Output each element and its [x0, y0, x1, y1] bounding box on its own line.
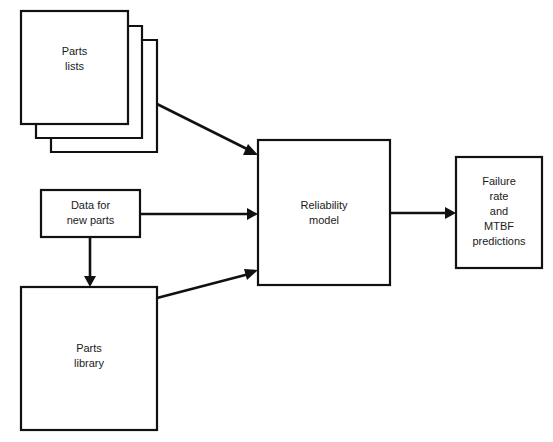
edge-parts-library-to-reliability-model	[157, 269, 258, 298]
edge-data-for-new-parts-to-parts-library	[84, 237, 96, 287]
node-reliability-model[interactable]	[258, 140, 390, 285]
edge-parts-lists-to-reliability-model	[157, 104, 258, 155]
node-data-for-new-parts[interactable]	[41, 190, 140, 237]
node-parts-lists-stack[interactable]	[21, 11, 157, 152]
node-parts-library[interactable]	[21, 287, 157, 430]
arrowhead-icon	[247, 208, 258, 220]
arrowhead-icon	[445, 207, 456, 219]
diagram-canvas-container: Parts lists Data for new parts Parts lib…	[0, 0, 553, 442]
arrowhead-icon	[244, 269, 258, 280]
node-failure-rate-mtbf-predictions[interactable]	[456, 157, 542, 268]
arrowhead-icon	[84, 276, 96, 287]
parts-lists-stack-layer-front	[21, 11, 128, 124]
flowchart-svg	[0, 0, 553, 442]
edge-reliability-model-to-predictions	[390, 207, 456, 219]
edge-data-for-new-parts-to-reliability-model	[140, 208, 258, 220]
